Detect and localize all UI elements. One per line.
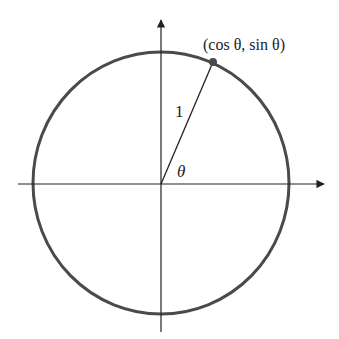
angle-label: θ: [177, 162, 185, 181]
radius-line: [161, 62, 213, 184]
point-on-circle: [209, 58, 217, 66]
unit-circle-diagram: (cos θ, sin θ) 1 θ: [0, 0, 339, 339]
radius-label: 1: [175, 102, 184, 121]
point-label: (cos θ, sin θ): [203, 36, 285, 54]
